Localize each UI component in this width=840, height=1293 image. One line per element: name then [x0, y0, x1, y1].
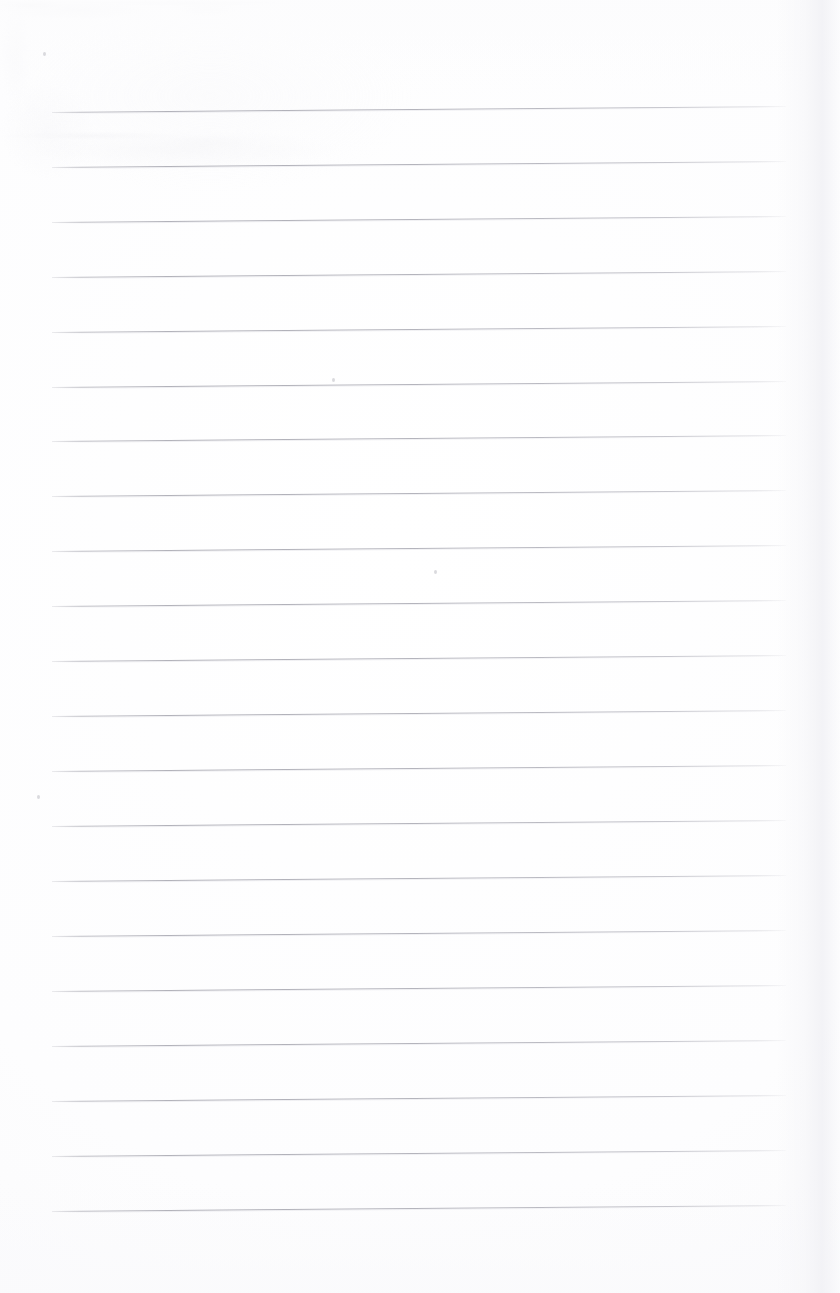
ruled-line-3 — [52, 216, 786, 223]
scan-speck-center — [434, 570, 437, 574]
ruled-line-13 — [52, 765, 786, 772]
scan-speck-upper-left — [43, 52, 46, 56]
lined-notebook-page — [0, 0, 840, 1293]
ruled-line-8 — [52, 490, 786, 497]
scan-speck-left-mid — [37, 795, 40, 799]
ruled-line-14 — [52, 820, 786, 827]
ruled-line-20 — [52, 1150, 786, 1157]
ruled-line-21 — [52, 1205, 786, 1212]
ruled-line-1 — [52, 106, 786, 113]
ruled-line-11 — [52, 655, 786, 662]
ruled-line-2 — [52, 161, 786, 168]
ruled-line-17 — [52, 985, 786, 992]
ruled-lines-layer — [0, 0, 840, 1293]
ruled-line-18 — [52, 1040, 786, 1047]
ruled-line-12 — [52, 710, 786, 717]
ruled-line-4 — [52, 271, 786, 278]
ruled-line-9 — [52, 545, 786, 552]
ruled-line-5 — [52, 326, 786, 333]
scan-speck-upper-mid — [332, 378, 335, 382]
ruled-line-7 — [52, 435, 786, 442]
ruled-line-10 — [52, 600, 786, 607]
ruled-line-6 — [52, 381, 786, 388]
ruled-line-15 — [52, 875, 786, 882]
ruled-line-19 — [52, 1095, 786, 1102]
ruled-line-16 — [52, 930, 786, 937]
